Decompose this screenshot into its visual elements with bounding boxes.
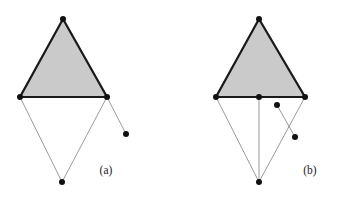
node-free-lower [292, 134, 298, 140]
node-apex [60, 16, 66, 22]
node-apex [256, 16, 262, 22]
panel-label-b: (b) [303, 164, 317, 177]
node-base-right [302, 94, 308, 100]
figure-background [0, 0, 339, 200]
node-dangling [123, 131, 129, 137]
node-bottom [256, 179, 262, 185]
node-base-left [17, 94, 23, 100]
panel-label-a: (a) [100, 164, 113, 177]
node-base-left [213, 94, 219, 100]
node-bottom [59, 179, 65, 185]
node-base-right [104, 94, 110, 100]
figure-container: (a)(b) [0, 0, 339, 200]
figure-canvas: (a)(b) [0, 0, 339, 200]
node-free-upper [274, 102, 280, 108]
node-base-middle [256, 94, 262, 100]
